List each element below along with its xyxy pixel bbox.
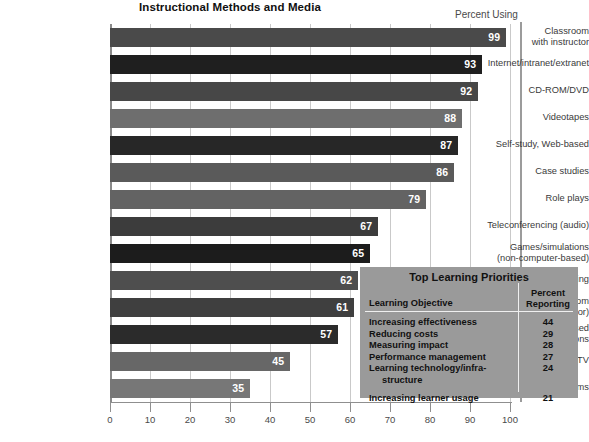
bar-row: 86 [110,163,510,182]
bar-value-label: 62 [110,274,352,286]
x-tick-label-40: 40 [257,414,283,425]
x-tick-60 [350,402,351,412]
priority-value: 21 [520,393,576,403]
bar-value-label: 61 [110,301,348,313]
priorities-column-divider [518,283,519,392]
x-tick-90 [470,402,471,412]
bar-row: 65 [110,244,510,263]
gridline-50 [310,24,311,402]
category-label-line2: (non-computer-based) [485,253,589,264]
x-tick-label-100: 100 [497,414,523,425]
bar-value-label: 99 [110,31,500,43]
category-label: Classroomwith instructor [485,26,589,47]
priorities-title: Top Learning Priorities [360,271,578,283]
x-tick-30 [230,402,231,412]
category-label: Role plays [485,193,589,204]
bar-row: 99 [110,28,510,47]
chart-title: Instructional Methods and Media [0,1,460,13]
x-tick-50 [310,402,311,412]
category-label-line1: CD-ROM/DVD [485,85,589,96]
priorities-header-percent-line2: Reporting [526,299,570,309]
gridline-60 [350,24,351,402]
priority-label: Measuring impact [369,340,448,350]
priorities-header-percent-line1: Percent [531,288,565,298]
x-tick-label-90: 90 [457,414,483,425]
bar-row: 93 [110,55,510,74]
gridline-20 [190,24,191,402]
x-tick-20 [190,402,191,412]
priority-value: 27 [520,352,576,362]
priority-label: Learning technology/infra- [369,363,486,373]
priorities-header-divider [365,311,573,312]
priorities-header-percent: Percent Reporting [520,288,576,309]
category-label: Teleconferencing (audio) [485,220,589,231]
x-tick-label-20: 20 [177,414,203,425]
bar-row: 67 [110,217,510,236]
priority-value: 29 [520,329,576,339]
category-label-line1: Teleconferencing (audio) [485,220,589,231]
category-label-line1: Games/simulations [485,242,589,253]
bar-value-label: 79 [110,193,420,205]
priority-label: structure [382,375,422,385]
x-tick-label-10: 10 [137,414,163,425]
top-learning-priorities-box: Top Learning Priorities Learning Objecti… [360,267,578,398]
category-label: Self-study, Web-based [485,139,589,150]
x-tick-label-0: 0 [97,414,123,425]
bar-row: 92 [110,82,510,101]
category-label: Case studies [485,166,589,177]
category-label-line1: Internet/intranet/extranet [485,58,589,69]
bar-value-label: 45 [110,355,284,367]
x-tick-label-30: 30 [217,414,243,425]
bar-value-label: 35 [110,382,244,394]
x-tick-70 [390,402,391,412]
category-label-line1: Classroom [485,26,589,37]
priority-label: Increasing learner usage [369,393,479,403]
priority-value: 24 [520,363,576,373]
category-label-line1: Self-study, Web-based [485,139,589,150]
gridline-10 [150,24,151,402]
x-tick-label-50: 50 [297,414,323,425]
bar-value-label: 93 [110,58,476,70]
gridline-0 [110,24,112,402]
bar-value-label: 92 [110,85,472,97]
bar-value-label: 57 [110,328,332,340]
x-tick-10 [150,402,151,412]
category-label-line1: Role plays [485,193,589,204]
bar-value-label: 65 [110,247,364,259]
bar-row: 79 [110,190,510,209]
x-tick-40 [270,402,271,412]
x-tick-label-80: 80 [417,414,443,425]
x-tick-label-70: 70 [377,414,403,425]
instructional-methods-chart: Instructional Methods and Media Percent … [0,0,589,442]
x-tick-0 [110,402,111,412]
gridline-30 [230,24,231,402]
percent-using-caption: Percent Using [455,9,518,20]
bar-value-label: 67 [110,220,372,232]
priorities-header-objective: Learning Objective [369,298,453,308]
priority-label: Increasing effectiveness [369,317,477,327]
category-label: Internet/intranet/extranet [485,58,589,69]
category-label: Games/simulations(non-computer-based) [485,242,589,263]
bar-value-label: 87 [110,139,452,151]
bar-value-label: 86 [110,166,448,178]
bar-row: 87 [110,136,510,155]
bar-value-label: 88 [110,112,456,124]
category-label-line2: with instructor [485,37,589,48]
category-label-line1: Videotapes [485,112,589,123]
x-tick-label-60: 60 [337,414,363,425]
gridline-40 [270,24,271,402]
x-tick-80 [430,402,431,412]
bar-row: 88 [110,109,510,128]
category-label-line1: Case studies [485,166,589,177]
priority-value: 44 [520,317,576,327]
priority-label: Performance management [369,352,486,362]
priority-label: Reducing costs [369,329,438,339]
category-label: CD-ROM/DVD [485,85,589,96]
category-label: Videotapes [485,112,589,123]
x-tick-100 [510,402,511,412]
priority-value: 28 [520,340,576,350]
